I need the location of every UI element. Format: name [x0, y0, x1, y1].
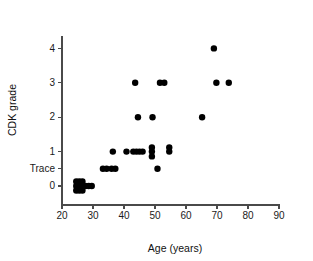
y-axis-title: CDK grade	[6, 84, 18, 136]
x-tick-label: 40	[118, 210, 130, 221]
y-tick-label: 2	[49, 111, 55, 122]
x-tick-label: 50	[149, 210, 161, 221]
data-point	[132, 80, 138, 86]
y-tick-label: 3	[49, 77, 55, 88]
x-tick-label: 30	[87, 210, 99, 221]
plot-canvas: 0Trace12342030405060708090 Age (years) C…	[0, 0, 313, 261]
y-tick-label: 4	[49, 43, 55, 54]
x-tick-label: 60	[180, 210, 192, 221]
data-point	[161, 80, 167, 86]
data-point	[89, 183, 95, 189]
y-tick-label: Trace	[30, 163, 56, 174]
data-point	[154, 166, 160, 172]
data-point	[149, 114, 155, 120]
scatter-chart: 0Trace12342030405060708090 Age (years) C…	[0, 0, 313, 261]
tick-marks-group: 0Trace12342030405060708090	[30, 43, 285, 222]
data-point	[199, 114, 205, 120]
data-point	[139, 148, 145, 154]
data-point	[123, 148, 129, 154]
data-point	[149, 153, 155, 159]
y-tick-label: 0	[49, 180, 55, 191]
data-point	[166, 148, 172, 154]
data-points-group	[73, 45, 232, 193]
data-point	[213, 80, 219, 86]
y-tick-label: 1	[49, 146, 55, 157]
x-tick-label: 90	[273, 210, 285, 221]
x-tick-label: 20	[56, 210, 68, 221]
data-point	[79, 187, 85, 193]
x-tick-label: 70	[211, 210, 223, 221]
x-axis-title: Age (years)	[148, 242, 202, 254]
data-point	[211, 45, 217, 51]
data-point	[135, 114, 141, 120]
data-point	[226, 80, 232, 86]
data-point	[110, 148, 116, 154]
axes-group	[62, 36, 280, 205]
x-tick-label: 80	[242, 210, 254, 221]
data-point	[112, 166, 118, 172]
